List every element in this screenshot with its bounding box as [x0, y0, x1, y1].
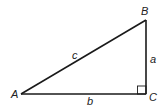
- side-label-b: b: [87, 95, 93, 107]
- side-label-c: c: [72, 49, 78, 61]
- vertex-label-a: A: [10, 88, 18, 100]
- side-label-a: a: [150, 53, 156, 65]
- right-angle-marker: [138, 86, 147, 94]
- right-triangle-diagram: B A C a b c: [0, 0, 165, 111]
- side-c: [21, 20, 146, 94]
- vertex-label-b: B: [141, 5, 148, 17]
- vertex-label-c: C: [149, 91, 157, 103]
